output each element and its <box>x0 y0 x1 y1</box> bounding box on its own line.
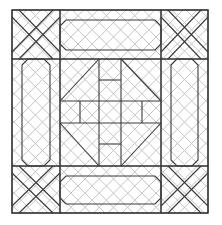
quilting-line <box>219 0 222 225</box>
quilting-line <box>0 0 8 225</box>
quilting-line <box>204 0 222 225</box>
quilting-line <box>0 0 8 225</box>
triangle-seam <box>121 123 161 166</box>
corner-bottom-right <box>161 166 208 213</box>
bar-piece <box>22 59 50 166</box>
triangle-seam <box>60 59 99 101</box>
quilt-block-diagram <box>0 0 222 225</box>
corner-square <box>161 166 208 213</box>
quilting-line <box>204 0 222 225</box>
bar-piece <box>60 20 161 50</box>
quilting-line <box>219 0 222 225</box>
quilting-crosshatch <box>0 0 222 225</box>
